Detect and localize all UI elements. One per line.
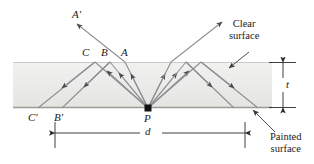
label-c-prime: C′ <box>28 111 38 124</box>
label-thickness-t: t <box>286 78 289 91</box>
label-p: P <box>144 112 151 125</box>
label-c: C <box>82 46 89 59</box>
label-b: B <box>101 46 108 59</box>
escaping-ray-right <box>171 22 222 62</box>
point-p-marker <box>145 105 152 112</box>
diagram-canvas <box>0 0 314 164</box>
painted-surface-leader <box>253 110 275 132</box>
clear-surface-line-1: Clear <box>229 18 259 30</box>
optics-ray-diagram: A′ A B C B′ C′ P t d Clear surface Paint… <box>0 0 314 164</box>
label-distance-d: d <box>145 125 151 138</box>
painted-surface-line-1: Painted <box>270 131 302 143</box>
annotation-painted-surface: Painted surface <box>270 131 302 155</box>
label-a-prime: A′ <box>72 8 81 21</box>
annotation-clear-surface: Clear surface <box>229 18 259 42</box>
label-a: A <box>121 46 128 59</box>
clear-surface-line-2: surface <box>229 30 259 42</box>
label-b-prime: B′ <box>54 111 63 124</box>
thickness-dimension <box>269 63 296 108</box>
painted-surface-line-2: surface <box>270 143 302 155</box>
